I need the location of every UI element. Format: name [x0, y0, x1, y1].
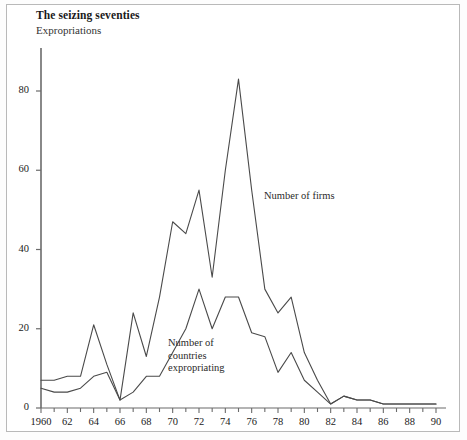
x-tick-label: 90: [416, 416, 456, 427]
annotation-firms-text: Number of firms: [264, 190, 335, 201]
y-tick-label: 40: [5, 243, 29, 254]
annotation-number-of-firms: Number of firms: [264, 190, 335, 203]
y-tick-label: 60: [5, 163, 29, 174]
annotation-countries-line-2: countries: [168, 350, 225, 363]
chart-series: [41, 79, 436, 404]
y-tick-label: 20: [5, 322, 29, 333]
chart-page: The seizing seventies Expropriations Num…: [0, 0, 467, 440]
series-line: [41, 289, 436, 404]
y-tick-label: 0: [5, 401, 29, 412]
annotation-countries-line-1: Number of: [168, 337, 225, 350]
annotation-countries-line-3: expropriating: [168, 362, 225, 375]
annotation-number-of-countries: Number of countries expropriating: [168, 337, 225, 375]
y-tick-label: 80: [5, 84, 29, 95]
line-chart-plot: [0, 0, 467, 440]
series-line: [41, 79, 436, 404]
